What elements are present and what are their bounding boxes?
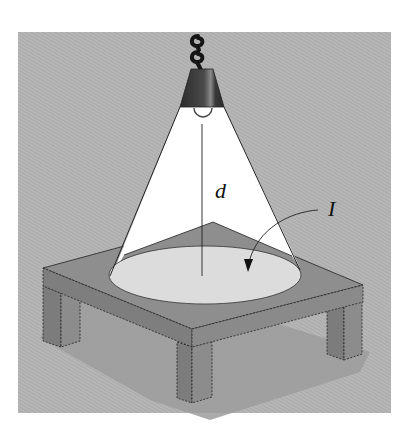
diagram-canvas: d I <box>0 0 405 434</box>
distance-label: d <box>215 178 227 203</box>
illuminated-area <box>109 246 301 304</box>
